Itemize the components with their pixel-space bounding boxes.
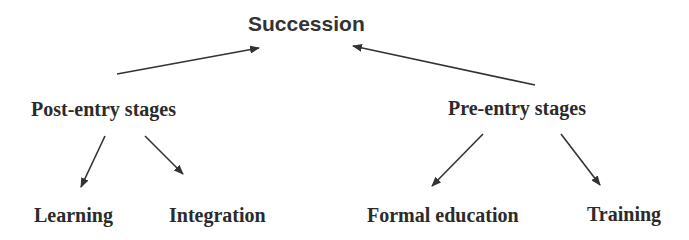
node-formal-education: Formal education: [367, 204, 519, 227]
arrow-pre-entry-to-training: [561, 134, 600, 185]
node-pre-entry-stages: Pre-entry stages: [448, 97, 586, 120]
node-learning: Learning: [34, 204, 113, 227]
node-post-entry-stages: Post-entry stages: [31, 98, 176, 121]
succession-diagram: Succession Post-entry stages Pre-entry s…: [0, 0, 689, 240]
node-integration: Integration: [169, 204, 266, 227]
arrow-post-entry-to-integration: [145, 136, 183, 174]
node-succession: Succession: [248, 12, 365, 36]
arrow-post-entry-to-learning: [81, 136, 105, 187]
node-training: Training: [587, 203, 661, 226]
arrow-pre-entry-to-formal-education: [432, 134, 483, 186]
arrow-pre-entry-to-succession: [353, 46, 535, 85]
arrow-post-entry-to-succession: [117, 48, 259, 74]
